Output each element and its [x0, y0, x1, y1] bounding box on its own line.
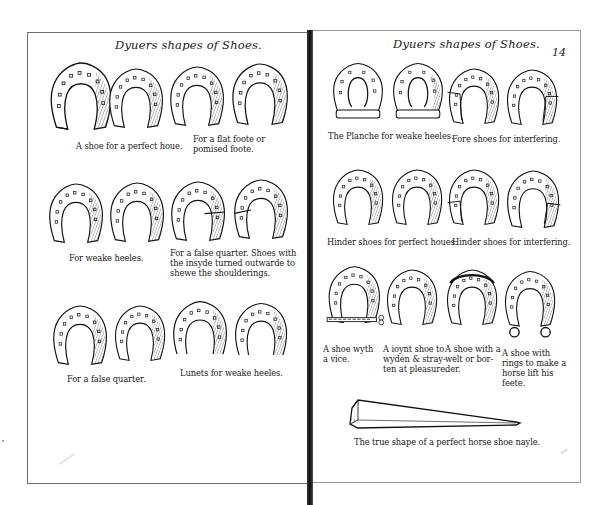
caption-ioynt-shoe: A ioynt shoe to wyden & stray- ten at pl… — [383, 344, 447, 374]
caption-perfect-houe: A shoe for a perfect houe. — [76, 141, 182, 151]
horseshoe-vice-icon — [324, 262, 386, 332]
horseshoe-icon — [384, 264, 440, 332]
caption-welt: A shoe with a welt or bor- der. — [445, 344, 501, 374]
caption-false-quarter-shoulderings: For a false quarter. Shoes with the insy… — [170, 248, 296, 278]
caption-planche: The Planche for weake heeles. — [328, 131, 453, 141]
horseshoe-rings-icon — [502, 264, 558, 346]
caption-flat-foote: For a flat foote or pomised foote. — [193, 134, 265, 154]
caption-vice: A shoe wyth a vice. — [323, 344, 373, 364]
ink-speck — [2, 440, 4, 442]
horseshoe-nail-icon — [346, 398, 526, 432]
caption-fore-shoes-interfering: Fore shoes for interfering. — [452, 134, 560, 144]
horseshoe-icon — [231, 172, 291, 248]
left-running-head: Dyuers shapes of Shoes. — [115, 38, 262, 52]
caption-false-quarter: For a false quarter. — [67, 374, 145, 384]
caption-rings: A shoe with rings to make a horse lift h… — [502, 348, 566, 388]
caption-lunets: Lunets for weake heeles. — [180, 368, 283, 378]
book-gutter — [307, 30, 313, 505]
horseshoe-icon — [444, 264, 500, 332]
horseshoe-icon — [50, 300, 110, 372]
horseshoe-icon — [232, 297, 290, 355]
right-running-head: Dyuers shapes of Shoes. — [393, 37, 540, 51]
horseshoe-icon — [229, 56, 291, 134]
horseshoe-icon — [504, 165, 562, 235]
page-number: 14 — [552, 46, 566, 59]
caption-nayle: The true shape of a perfect horse shoe n… — [354, 437, 540, 447]
horseshoe-icon — [330, 57, 386, 129]
horseshoe-icon — [168, 174, 228, 250]
horseshoe-icon — [504, 64, 560, 132]
horseshoe-icon — [446, 163, 502, 233]
caption-hinder-interfering: Hinder shoes for interfering. — [452, 237, 570, 247]
horseshoe-icon — [46, 177, 106, 251]
horseshoe-icon — [112, 298, 168, 370]
caption-hinder-perfect: Hinder shoes for perfect houes. — [327, 237, 457, 247]
horseshoe-icon — [107, 176, 167, 250]
horseshoe-icon — [170, 296, 230, 354]
horseshoe-icon — [389, 163, 445, 233]
horseshoe-icon — [167, 58, 227, 136]
horseshoe-icon — [106, 60, 166, 138]
horseshoe-icon — [390, 57, 446, 129]
caption-weake-heeles: For weake heeles. — [69, 253, 143, 263]
horseshoe-icon — [446, 62, 502, 132]
horseshoe-icon — [47, 58, 115, 136]
horseshoe-icon — [330, 163, 386, 233]
